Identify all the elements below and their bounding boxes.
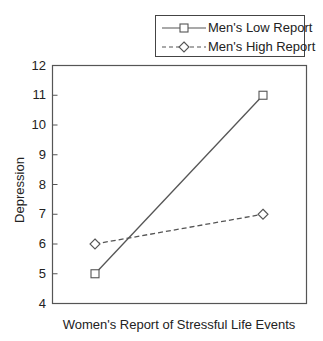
legend-item-high-report: Men's High Report xyxy=(156,38,304,56)
y-tick-label: 6 xyxy=(16,236,46,251)
legend-label: Men's High Report xyxy=(208,39,315,54)
series-line xyxy=(95,95,263,274)
legend: Men's Low Report Men's High Report xyxy=(155,15,305,57)
y-axis-title: Depression xyxy=(12,157,27,223)
y-tick-label: 4 xyxy=(16,296,46,311)
y-tick-label: 5 xyxy=(16,266,46,281)
dashed-line-diamond-marker-icon xyxy=(162,38,206,56)
y-tick-label: 11 xyxy=(16,87,46,102)
y-tick-label: 12 xyxy=(16,58,46,73)
x-axis-title: Women's Report of Stressful Life Events xyxy=(63,317,296,332)
series-line xyxy=(95,214,263,244)
diamond-marker-icon xyxy=(90,239,100,249)
series-group xyxy=(90,91,268,278)
y-ticks xyxy=(53,66,58,304)
diamond-marker-icon xyxy=(258,209,268,219)
legend-item-low-report: Men's Low Report xyxy=(156,19,304,37)
square-marker-icon xyxy=(259,91,267,99)
y-tick-label: 10 xyxy=(16,117,46,132)
square-marker-icon xyxy=(91,270,99,278)
solid-line-square-marker-icon xyxy=(162,19,206,37)
legend-label: Men's Low Report xyxy=(208,20,312,35)
